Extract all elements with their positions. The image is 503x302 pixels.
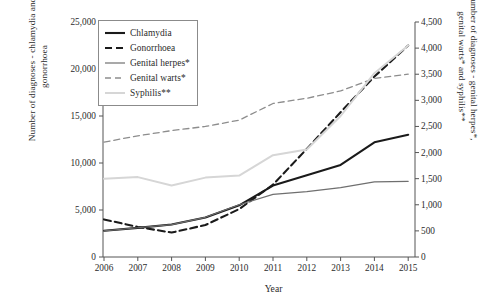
x-axis-tick-label: 2012	[298, 263, 317, 273]
y-axis-right-tick-label: 0	[421, 252, 426, 262]
x-axis-tick-label: 2009	[196, 263, 215, 273]
y-axis-left-title-line1: Number of diagnoses - chlamydia and	[27, 0, 39, 185]
y-axis-left-title-line2: gonorrhoea	[38, 0, 50, 179]
y-axis-right-tick-label: 2,000	[421, 148, 442, 158]
y-axis-right-tick-label: 500	[421, 226, 435, 236]
legend-key-swatch	[104, 58, 126, 68]
y-axis-right-title-line2: genital warts* and syphilis**	[456, 0, 468, 182]
legend-item-label: Chlamydia	[130, 28, 172, 38]
legend-key-swatch	[104, 43, 126, 53]
x-axis-tick-label: 2010	[230, 263, 249, 273]
y-axis-left-tick-label: 5,000	[75, 205, 96, 215]
legend-item-label: Gonorrhoea	[130, 43, 175, 53]
legend-item[interactable]: Gonorrhoea	[99, 40, 197, 55]
y-axis-left-tick-label: 0	[91, 252, 96, 262]
y-axis-right-tick-label: 4,000	[421, 43, 442, 53]
legend-key-swatch	[104, 88, 126, 98]
legend-item-label: Genital warts*	[130, 73, 186, 83]
y-axis-left-tick-label: 15,000	[70, 111, 96, 121]
y-axis-left-title: Number of diagnoses - chlamydia and gono…	[27, 0, 50, 185]
y-axis-left-tick-label: 20,000	[70, 64, 96, 74]
x-axis-tick-label: 2015	[399, 263, 418, 273]
x-axis-title: Year	[0, 283, 503, 294]
y-axis-left-tick-label: 25,000	[70, 17, 96, 27]
legend-item[interactable]: Syphilis**	[99, 86, 197, 101]
x-axis-tick-label: 2007	[129, 263, 148, 273]
y-axis-right-tick-label: 1,500	[421, 174, 442, 184]
x-axis-tick-labels: 2006200720082009201020112012201320142015	[0, 263, 503, 277]
y-axis-right-tick-label: 3,500	[421, 69, 442, 79]
y-axis-right-tick-label: 3,000	[421, 95, 442, 105]
chart-legend: ChlamydiaGonorrhoeaGenital herpes*Genita…	[98, 20, 198, 106]
x-axis-title-text: Year	[265, 283, 283, 294]
series-line	[104, 181, 408, 231]
legend-key-swatch	[104, 73, 126, 83]
legend-item-label: Syphilis**	[130, 88, 171, 98]
series-line	[104, 135, 408, 231]
chart-figure: Number of diagnoses - chlamydia and gono…	[0, 0, 503, 302]
legend-item[interactable]: Genital herpes*	[99, 55, 197, 70]
legend-key-swatch	[104, 28, 126, 38]
y-axis-right-tick-label: 1,000	[421, 200, 442, 210]
y-axis-right-tick-label: 4,500	[421, 17, 442, 27]
x-axis-tick-label: 2011	[264, 263, 282, 273]
x-axis-tick-label: 2014	[365, 263, 384, 273]
y-axis-right-title: Number of diagnoses - genital herpes*, g…	[456, 0, 479, 182]
legend-item[interactable]: Genital warts*	[99, 71, 197, 86]
x-axis-tick-label: 2006	[95, 263, 114, 273]
legend-item[interactable]: Chlamydia	[99, 25, 197, 40]
y-axis-right-tick-label: 2,500	[421, 121, 442, 131]
legend-item-label: Genital herpes*	[130, 58, 190, 68]
x-axis-tick-label: 2008	[162, 263, 181, 273]
x-axis-tick-label: 2013	[331, 263, 350, 273]
y-axis-left-tick-label: 10,000	[70, 158, 96, 168]
y-axis-right-title-line1: Number of diagnoses - genital herpes*,	[467, 0, 479, 182]
